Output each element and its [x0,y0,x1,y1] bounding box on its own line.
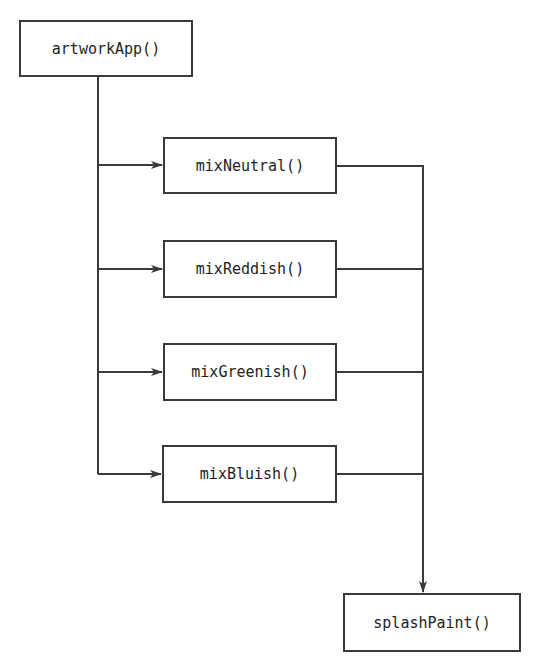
node-mix-greenish: mixGreenish() [163,343,337,401]
node-mix-neutral: mixNeutral() [163,137,337,194]
node-mix-reddish: mixReddish() [163,240,337,298]
node-label: splashPaint() [373,614,490,632]
node-label: mixBluish() [200,465,299,483]
node-label: mixNeutral() [196,157,304,175]
node-label: mixGreenish() [191,363,308,381]
node-splash-paint: splashPaint() [343,593,521,652]
connector-layer [0,0,542,672]
node-mix-bluish: mixBluish() [162,445,337,503]
node-label: mixReddish() [196,260,304,278]
node-label: artworkApp() [52,40,160,58]
node-artwork-app: artworkApp() [19,20,193,77]
